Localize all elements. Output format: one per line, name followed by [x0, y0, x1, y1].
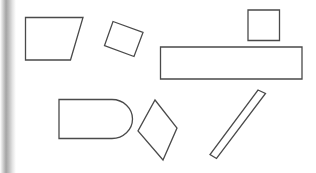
shape-long-rectangle[interactable]: [161, 47, 303, 79]
shape-square[interactable]: [248, 10, 280, 41]
left-edge-gradient-strip: [0, 0, 16, 173]
shape-rounded-rectangle[interactable]: [59, 100, 132, 139]
shapes-canvas-root: [0, 0, 316, 173]
shape-drawing-surface[interactable]: [0, 0, 316, 173]
